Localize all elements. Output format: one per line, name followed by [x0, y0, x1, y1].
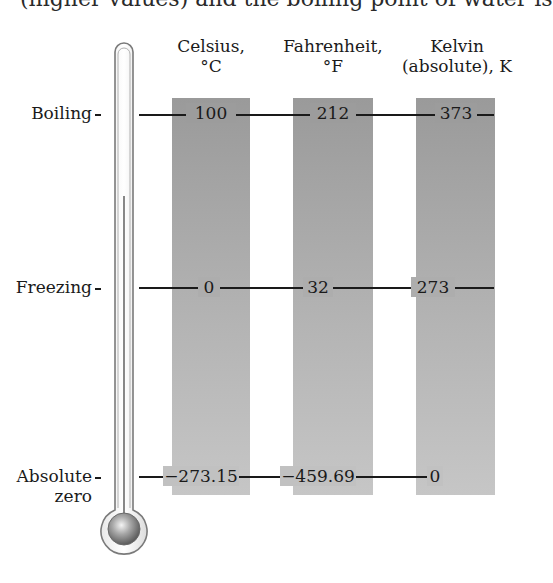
value-boiling-celsius: 100 — [186, 103, 236, 123]
value-freezing-kelvin: 273 — [411, 277, 455, 297]
tick-freezing — [95, 288, 101, 290]
column-title: Fahrenheit, — [273, 36, 393, 56]
value-boiling-fahrenheit: 212 — [310, 103, 356, 123]
cutoff-caption: (higher values) and the boiling point of… — [20, 0, 553, 11]
value-boiling-kelvin: 373 — [435, 103, 477, 123]
column-header-celsius: Celsius, °C — [162, 36, 260, 76]
row-label-absolute-zero: Absolute zero — [0, 466, 92, 506]
row-label-boiling: Boiling — [0, 103, 92, 123]
tick-boiling — [95, 114, 101, 116]
value-freezing-fahrenheit: 32 — [303, 277, 333, 297]
column-title: Celsius, — [162, 36, 260, 56]
column-title: Kelvin — [392, 36, 522, 56]
column-unit: °C — [162, 56, 260, 76]
column-unit: (absolute), K — [392, 56, 522, 76]
column-header-fahrenheit: Fahrenheit, °F — [273, 36, 393, 76]
value-absolute-zero-fahrenheit: −459.69 — [280, 466, 356, 486]
row-label-freezing: Freezing — [0, 277, 92, 297]
value-absolute-zero-celsius: −273.15 — [163, 466, 239, 486]
column-unit: °F — [273, 56, 393, 76]
value-freezing-celsius: 0 — [198, 277, 220, 297]
thermometer-icon — [88, 40, 160, 580]
value-absolute-zero-kelvin: 0 — [427, 466, 443, 486]
tick-absolute-zero — [95, 477, 101, 479]
column-header-kelvin: Kelvin (absolute), K — [392, 36, 522, 76]
